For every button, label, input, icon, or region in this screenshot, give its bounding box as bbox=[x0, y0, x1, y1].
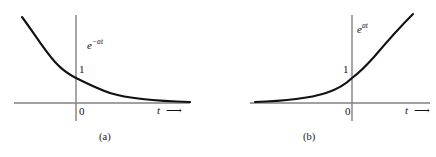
plot-b-svg bbox=[218, 0, 436, 157]
y-tick-label-one-a: 1 bbox=[79, 64, 85, 75]
x-axis-arrow-icon-b: ⟶ bbox=[414, 105, 429, 116]
panel-caption-a: (a) bbox=[99, 132, 111, 143]
y-tick-label-one-b: 1 bbox=[343, 64, 349, 75]
curve-decaying-exponential bbox=[22, 17, 190, 102]
x-axis-label-a: t bbox=[157, 105, 160, 116]
curve-label-a-exponent: −at bbox=[92, 37, 103, 46]
curve-label-a: e−at bbox=[87, 38, 103, 51]
curve-label-b: eat bbox=[357, 22, 368, 35]
curve-label-b-exponent: at bbox=[362, 21, 368, 30]
exponential-functions-figure: e−at 1 0 t ⟶ (a) eat 1 0 t ⟶ (b) bbox=[0, 0, 436, 157]
panel-growing-exponential: eat 1 0 t ⟶ (b) bbox=[218, 0, 436, 157]
curve-growing-exponential bbox=[255, 14, 413, 102]
origin-label-a: 0 bbox=[79, 106, 85, 117]
x-axis-arrow-icon-a: ⟶ bbox=[166, 105, 181, 116]
panel-caption-b: (b) bbox=[303, 132, 315, 143]
panel-decaying-exponential: e−at 1 0 t ⟶ (a) bbox=[0, 0, 218, 157]
x-axis-label-b: t bbox=[405, 105, 408, 116]
origin-label-b: 0 bbox=[345, 106, 351, 117]
